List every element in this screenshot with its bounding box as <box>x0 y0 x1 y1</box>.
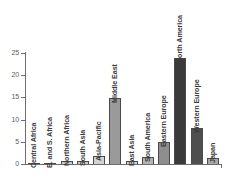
category-label: North America <box>176 15 183 63</box>
bar-chart: 0510152025 Central AfricaE. and S. Afric… <box>0 0 235 183</box>
category-label: Middle East <box>111 64 118 103</box>
category-label: South Asia <box>79 130 86 166</box>
category-label: Japan <box>209 143 216 163</box>
category-label: Central Africa <box>30 123 37 168</box>
category-label: Asia-Pacific <box>95 122 102 162</box>
category-label: East Asia <box>128 135 135 166</box>
category-labels-container: Central AfricaE. and S. AfricaNorthern A… <box>0 0 235 183</box>
category-label: Western Europe <box>193 80 200 134</box>
category-label: E. and S. Africa <box>46 117 53 168</box>
category-label: Eastern Europe <box>160 95 167 147</box>
category-label: South America <box>144 113 151 162</box>
category-label: Northern Africa <box>63 115 70 166</box>
